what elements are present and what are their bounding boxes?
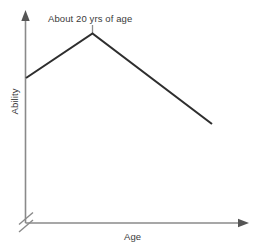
x-axis-label: Age — [124, 231, 141, 242]
y-axis-arrow-icon — [21, 10, 29, 21]
chart-canvas — [0, 0, 258, 252]
peak-annotation-label: About 20 yrs of age — [48, 13, 132, 24]
ability-vs-age-chart: About 20 yrs of age Age Ability — [0, 0, 258, 252]
x-axis-arrow-icon — [238, 219, 249, 227]
ability-curve — [26, 34, 212, 125]
y-axis-label: Ability — [9, 80, 20, 124]
